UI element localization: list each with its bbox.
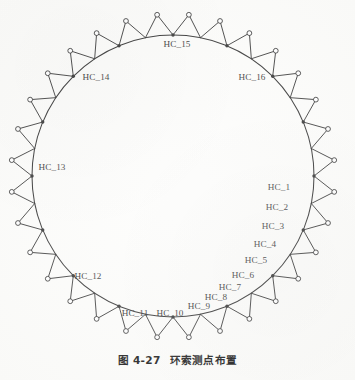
measurement-point-label-hc_13: HC_13 — [38, 163, 65, 172]
caption-text: 环索测点布置 — [170, 354, 238, 366]
ring-cable-diagram — [0, 0, 355, 380]
figure-root: HC_1HC_2HC_3HC_4HC_5HC_6HC_7HC_8HC_9HC_1… — [0, 0, 355, 380]
measurement-point-label-hc_16: HC_16 — [238, 73, 265, 82]
measurement-point-layer — [30, 33, 315, 318]
outer-node-layer — [9, 12, 336, 339]
strut-layer — [12, 15, 334, 337]
measurement-point-label-hc_5: HC_5 — [245, 256, 267, 265]
caption-number: 图 4-27 — [118, 354, 161, 366]
measurement-point-label-hc_9: HC_9 — [188, 302, 210, 311]
figure-caption: 图 4-27环索测点布置 — [0, 352, 355, 367]
measurement-point-label-hc_11: HC_11 — [122, 309, 149, 318]
measurement-point-label-hc_4: HC_4 — [254, 240, 276, 249]
measurement-point-label-hc_2: HC_2 — [266, 203, 288, 212]
measurement-point-label-hc_7: HC_7 — [219, 283, 241, 292]
measurement-point-label-hc_1: HC_1 — [268, 183, 290, 192]
measurement-point-label-hc_10: HC_10 — [156, 309, 183, 318]
measurement-point-label-hc_6: HC_6 — [232, 271, 254, 280]
measurement-point-label-hc_15: HC_15 — [163, 40, 190, 49]
measurement-point-label-hc_12: HC_12 — [74, 272, 101, 281]
measurement-point-label-hc_14: HC_14 — [82, 73, 109, 82]
measurement-point-label-hc_3: HC_3 — [262, 222, 284, 231]
